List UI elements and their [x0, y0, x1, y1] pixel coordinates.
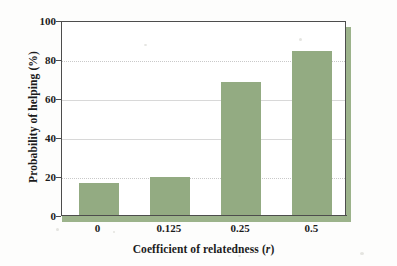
- x-axis-title: Coefficient of relatedness (r): [61, 243, 346, 255]
- bar-1: [150, 177, 190, 216]
- scan-speckle: [299, 38, 302, 41]
- bar-2: [221, 82, 261, 217]
- x-tick-label-2: 0.25: [210, 223, 270, 234]
- y-tick-label-20: 20: [26, 172, 56, 183]
- y-tick-label-40: 40: [26, 133, 56, 144]
- plot-area: [61, 21, 346, 216]
- bar-3: [292, 51, 332, 216]
- x-axis-line: [61, 215, 347, 216]
- x-tick-label-1: 0.125: [139, 223, 199, 234]
- scan-speckle: [144, 44, 147, 46]
- x-tick-label-0: 0: [68, 223, 128, 234]
- bar-0: [79, 183, 119, 216]
- y-tick-label-80: 80: [26, 55, 56, 66]
- figure-bar-chart: Probability of helping (%) 020406080100 …: [0, 0, 397, 266]
- y-tick-label-0: 0: [26, 211, 56, 222]
- x-axis-title-suffix: ): [270, 243, 274, 255]
- y-tick-label-60: 60: [26, 94, 56, 105]
- y-axis-title: Probability of helping (%): [27, 22, 45, 212]
- frame-shadow-right: [346, 27, 351, 222]
- scan-speckle: [360, 252, 364, 255]
- scan-speckle: [113, 231, 115, 233]
- scan-speckle: [238, 255, 241, 257]
- x-tick-label-3: 0.5: [281, 223, 341, 234]
- scan-speckle: [56, 228, 59, 231]
- y-tick-label-100: 100: [26, 16, 56, 27]
- x-axis-title-prefix: Coefficient of relatedness (: [133, 243, 266, 255]
